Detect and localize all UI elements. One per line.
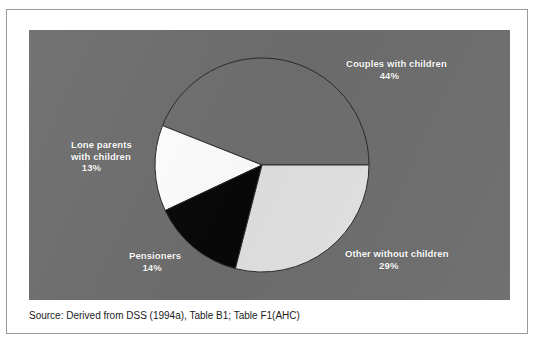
pie-label-lone-parents-with-children: Lone parents with children 13% — [71, 139, 132, 174]
pie-label-pensioners-text: Pensioners — [129, 250, 181, 261]
pie-label-other-without-children: Other without children 29% — [345, 248, 449, 271]
pie-label-pensioners: Pensioners 14% — [129, 250, 181, 273]
pie-label-lone-parents-text-line1: Lone parents — [71, 139, 132, 150]
pie-label-other-text: Other without children — [345, 248, 449, 259]
pie-label-couples-with-children: Couples with children 44% — [346, 58, 447, 81]
pie-label-lone-parents-text-line2: with children — [71, 151, 131, 162]
pie-label-pensioners-value: 14% — [129, 262, 181, 274]
pie-label-lone-parents-value: 13% — [71, 162, 132, 174]
pie-label-couples-text: Couples with children — [346, 58, 447, 69]
figure-frame: Couples with children 44% Lone parents w… — [6, 9, 528, 334]
source-note: Source: Derived from DSS (1994a), Table … — [29, 309, 499, 322]
pie-label-couples-value: 44% — [346, 70, 447, 82]
pie-label-other-value: 29% — [345, 260, 449, 272]
pie-slice-group — [155, 58, 369, 272]
chart-plot-area: Couples with children 44% Lone parents w… — [29, 30, 510, 300]
